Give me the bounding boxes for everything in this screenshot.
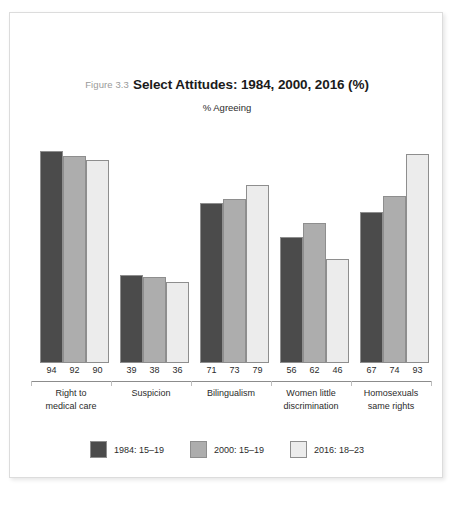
value-label: 67 (360, 365, 383, 375)
bar (326, 259, 349, 363)
value-label: 79 (246, 365, 269, 375)
axis-tick (431, 381, 432, 386)
chart-legend: 1984: 15–192000: 15–192016: 18–23 (10, 441, 444, 458)
value-label: 93 (406, 365, 429, 375)
bar (166, 282, 189, 363)
figure-card: Figure 3.3Select Attitudes: 1984, 2000, … (9, 12, 443, 478)
chart-plot-area (31, 138, 431, 363)
category-label-line: Women little (273, 387, 349, 400)
figure-page: Figure 3.3Select Attitudes: 1984, 2000, … (0, 0, 453, 505)
bar-group (191, 138, 271, 363)
bar (200, 203, 223, 363)
value-label-group: 677493 (351, 365, 431, 378)
value-label: 56 (280, 365, 303, 375)
bar (383, 196, 406, 363)
value-label: 94 (40, 365, 63, 375)
value-label: 38 (143, 365, 166, 375)
bar (223, 199, 246, 363)
bar (246, 185, 269, 363)
bar-group (111, 138, 191, 363)
figure-title: Select Attitudes: 1984, 2000, 2016 (%) (133, 77, 369, 92)
category-labels: Right tomedical careSuspicionBilingualis… (31, 387, 431, 412)
legend-swatch-1984 (90, 441, 107, 458)
bar-group (31, 138, 111, 363)
bar (86, 160, 109, 363)
bar (120, 275, 143, 363)
value-label: 62 (303, 365, 326, 375)
legend-item[interactable]: 1984: 15–19 (90, 441, 164, 458)
figure-subtitle: % Agreeing (10, 102, 444, 113)
category-label-line: Bilingualism (193, 387, 269, 400)
bar-value-labels: 949290393836717379566246677493 (31, 365, 431, 378)
category-label: Suspicion (111, 387, 191, 412)
value-label: 46 (326, 365, 349, 375)
category-label-line: same rights (353, 400, 429, 413)
bar (143, 277, 166, 363)
value-label-group: 566246 (271, 365, 351, 378)
axis-tick (271, 381, 272, 386)
value-label: 36 (166, 365, 189, 375)
bar (406, 154, 429, 363)
legend-label: 2000: 15–19 (214, 445, 264, 455)
figure-number: Figure 3.3 (85, 79, 129, 90)
value-label: 90 (86, 365, 109, 375)
value-label-group: 949290 (31, 365, 111, 378)
category-label-line: medical care (33, 400, 109, 413)
value-label: 71 (200, 365, 223, 375)
bar (280, 237, 303, 363)
legend-item[interactable]: 2000: 15–19 (190, 441, 264, 458)
category-label: Homosexualssame rights (351, 387, 431, 412)
bar (303, 223, 326, 363)
legend-label: 1984: 15–19 (114, 445, 164, 455)
legend-swatch-2000 (190, 441, 207, 458)
figure-title-row: Figure 3.3Select Attitudes: 1984, 2000, … (10, 75, 444, 93)
bar-group (271, 138, 351, 363)
category-label: Right tomedical care (31, 387, 111, 412)
bar-group (351, 138, 431, 363)
category-label-line: Right to (33, 387, 109, 400)
legend-item[interactable]: 2016: 18–23 (290, 441, 364, 458)
value-label: 74 (383, 365, 406, 375)
axis-tick (31, 381, 32, 386)
value-label-group: 717379 (191, 365, 271, 378)
legend-swatch-2016 (290, 441, 307, 458)
bar (360, 212, 383, 363)
value-label-group: 393836 (111, 365, 191, 378)
bar-groups (31, 138, 431, 363)
value-label: 73 (223, 365, 246, 375)
category-label-line: discrimination (273, 400, 349, 413)
axis-tick (111, 381, 112, 386)
legend-label: 2016: 18–23 (314, 445, 364, 455)
value-label: 39 (120, 365, 143, 375)
category-label: Bilingualism (191, 387, 271, 412)
value-label: 92 (63, 365, 86, 375)
bar (63, 156, 86, 363)
category-label-line: Homosexuals (353, 387, 429, 400)
axis-tick (351, 381, 352, 386)
bar (40, 151, 63, 363)
x-axis-ticks (31, 381, 431, 386)
category-label-line: Suspicion (113, 387, 189, 400)
category-label: Women littlediscrimination (271, 387, 351, 412)
axis-tick (191, 381, 192, 386)
